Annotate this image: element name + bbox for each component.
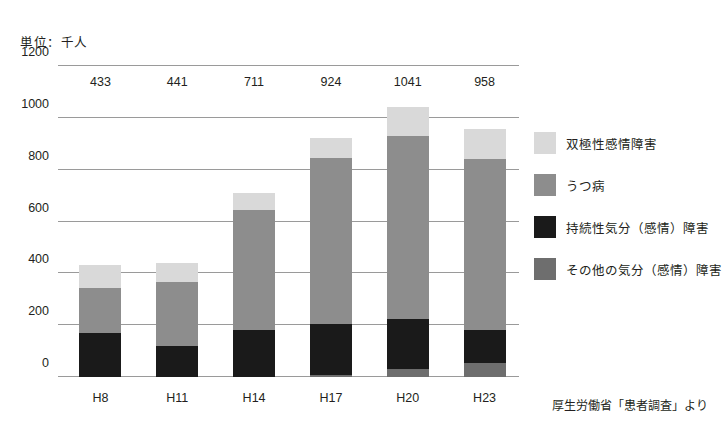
bar-segment-depression	[79, 288, 121, 333]
bar-segment-persistent	[233, 330, 275, 377]
legend-label: その他の気分（感情）障害	[566, 260, 722, 279]
bar-segment-persistent	[387, 319, 429, 369]
bar-segment-bipolar	[310, 138, 352, 158]
bar-group	[310, 138, 352, 377]
legend: 双極性感情障害うつ病持続性気分（感情）障害その他の気分（感情）障害	[534, 132, 722, 280]
bar-segment-bipolar	[233, 193, 275, 210]
bar-segment-bipolar	[79, 265, 121, 288]
bar-segment-bipolar	[387, 107, 429, 136]
legend-swatch-persistent	[534, 216, 556, 238]
bar-segment-depression	[310, 158, 352, 324]
plot-area: 020040060080010001200 433441711924104195…	[58, 66, 519, 377]
y-axis-tick-label: 600	[28, 201, 49, 215]
bar-segment-bipolar	[464, 129, 506, 160]
bar-segment-bipolar	[156, 263, 198, 283]
y-axis-tick-label: 0	[42, 356, 49, 370]
y-axis-tick-label: 1000	[21, 97, 49, 111]
source-note: 厚生労働省「患者調査」より	[552, 396, 708, 413]
legend-swatch-other	[534, 258, 556, 280]
bar-group	[79, 265, 121, 377]
legend-label: 持続性気分（感情）障害	[566, 218, 709, 237]
legend-item: 双極性感情障害	[534, 132, 722, 154]
bar-segment-persistent	[79, 333, 121, 377]
x-axis-tick-label: H20	[396, 391, 419, 405]
legend-swatch-depression	[534, 174, 556, 196]
legend-label: うつ病	[566, 176, 605, 195]
x-axis-tick-label: H17	[319, 391, 342, 405]
legend-item: その他の気分（感情）障害	[534, 258, 722, 280]
x-axis-tick-label: H11	[166, 391, 188, 405]
x-axis-tick-label: H14	[243, 391, 266, 405]
bar-segment-other	[387, 369, 429, 377]
bar-segment-depression	[233, 210, 275, 331]
bar-group	[233, 193, 275, 377]
bar-group	[156, 263, 198, 377]
legend-item: うつ病	[534, 174, 722, 196]
bar-segment-depression	[464, 159, 506, 330]
bar-segment-depression	[156, 282, 198, 345]
chart-container: 単位：千人 020040060080010001200 433441711924…	[0, 0, 724, 440]
bar-group	[387, 107, 429, 377]
bar-segment-persistent	[310, 324, 352, 375]
y-axis-tick-label: 1200	[21, 45, 49, 59]
bar-segment-persistent	[156, 346, 198, 377]
x-axis-tick-label: H23	[473, 391, 496, 405]
bar-series	[58, 66, 519, 377]
y-axis-tick-label: 200	[28, 304, 49, 318]
legend-item: 持続性気分（感情）障害	[534, 216, 722, 238]
legend-label: 双極性感情障害	[566, 134, 657, 153]
bar-segment-other	[464, 363, 506, 377]
bar-group	[464, 129, 506, 377]
x-axis-tick-label: H8	[92, 391, 108, 405]
bar-segment-persistent	[464, 330, 506, 362]
y-axis-tick-label: 400	[28, 252, 49, 266]
y-axis-tick-label: 800	[28, 149, 49, 163]
legend-swatch-bipolar	[534, 132, 556, 154]
bar-segment-other	[310, 375, 352, 377]
bar-segment-depression	[387, 136, 429, 319]
